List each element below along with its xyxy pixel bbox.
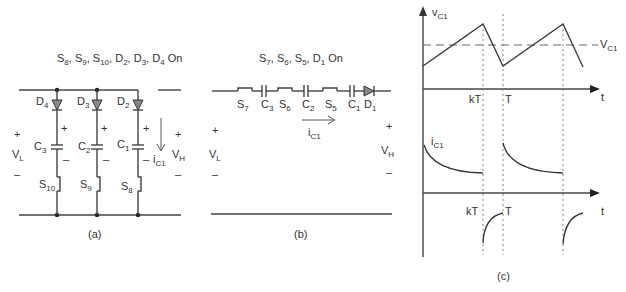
svg-text:S6: S6 bbox=[279, 98, 291, 113]
panel-b: S7, S6, S5, D1 On S7 C3 S6 C2 bbox=[209, 52, 394, 240]
switch-s9-icon bbox=[97, 177, 100, 191]
svg-text:C3: C3 bbox=[261, 98, 274, 113]
switch-s6-icon bbox=[278, 88, 292, 91]
svg-text:S8: S8 bbox=[121, 180, 133, 195]
x-axis-top-arrow-icon bbox=[590, 85, 600, 93]
svg-text:VH: VH bbox=[172, 148, 185, 163]
svg-text:iC1: iC1 bbox=[308, 126, 321, 141]
panel-c: vC1 VC1 kT T t iC1 kT T t (c) bbox=[419, 6, 618, 282]
svg-text:–: – bbox=[63, 153, 70, 165]
switch-s5-icon bbox=[323, 88, 337, 91]
ic1-negative-1 bbox=[483, 213, 503, 243]
svg-text:D2: D2 bbox=[117, 95, 130, 110]
svg-text:+: + bbox=[61, 122, 67, 134]
svg-text:+: + bbox=[386, 120, 392, 132]
branch-1: D4 C3 + – S10 bbox=[34, 90, 70, 215]
ic1-negative-2 bbox=[563, 213, 583, 244]
panel-a-caption: (a) bbox=[88, 228, 101, 240]
svg-text:–: – bbox=[212, 168, 219, 180]
diode-d2-icon bbox=[133, 100, 143, 110]
svg-text:S5: S5 bbox=[325, 98, 337, 113]
branch-2: D3 C2 + – S9 bbox=[77, 90, 110, 215]
svg-text:+: + bbox=[143, 122, 149, 134]
switch-s8-icon bbox=[138, 177, 141, 191]
ic1-positive-2 bbox=[503, 143, 563, 173]
svg-text:kT: kT bbox=[466, 205, 479, 217]
svg-text:t: t bbox=[601, 205, 604, 217]
svg-text:C1: C1 bbox=[117, 138, 130, 153]
panel-b-title: S7, S6, S5, D1 On bbox=[259, 52, 343, 67]
svg-text:iC1: iC1 bbox=[153, 153, 166, 168]
svg-text:VC1: VC1 bbox=[600, 38, 618, 53]
series-chain bbox=[212, 85, 391, 97]
x-axis-bottom-arrow-icon bbox=[590, 189, 600, 197]
svg-text:T: T bbox=[505, 205, 512, 217]
svg-text:iC1: iC1 bbox=[431, 135, 444, 150]
svg-text:–: – bbox=[175, 168, 182, 180]
switch-s7-icon bbox=[238, 88, 252, 91]
panel-c-caption: (c) bbox=[497, 270, 510, 282]
svg-text:S7: S7 bbox=[237, 98, 249, 113]
svg-text:+: + bbox=[175, 128, 181, 140]
svg-text:–: – bbox=[386, 166, 393, 178]
svg-text:VH: VH bbox=[381, 144, 394, 159]
svg-text:D1: D1 bbox=[364, 98, 377, 113]
svg-text:+: + bbox=[101, 122, 107, 134]
diode-d1-icon bbox=[364, 86, 374, 96]
switch-s10-icon bbox=[57, 177, 60, 191]
svg-text:D3: D3 bbox=[77, 95, 90, 110]
svg-text:VL: VL bbox=[209, 148, 221, 163]
svg-text:T: T bbox=[505, 93, 512, 105]
panel-b-caption: (b) bbox=[294, 228, 307, 240]
svg-text:+: + bbox=[14, 128, 20, 140]
svg-text:–: – bbox=[143, 153, 150, 165]
converter-diagram: S8, S9, S10, D2, D3, D4 On D4 C3 + – bbox=[0, 0, 626, 292]
panel-a: S8, S9, S10, D2, D3, D4 On D4 C3 + – bbox=[12, 52, 185, 240]
svg-text:S9: S9 bbox=[80, 178, 92, 193]
svg-text:–: – bbox=[14, 168, 21, 180]
svg-text:C1: C1 bbox=[348, 98, 361, 113]
svg-text:kT: kT bbox=[469, 93, 482, 105]
svg-text:–: – bbox=[103, 153, 110, 165]
svg-text:C3: C3 bbox=[34, 140, 47, 155]
svg-text:S10: S10 bbox=[39, 178, 56, 193]
panel-a-title: S8, S9, S10, D2, D3, D4 On bbox=[57, 52, 182, 67]
diode-d3-icon bbox=[92, 100, 102, 110]
svg-text:VL: VL bbox=[12, 148, 24, 163]
svg-text:C2: C2 bbox=[302, 98, 315, 113]
svg-text:C2: C2 bbox=[78, 140, 91, 155]
svg-text:vC1: vC1 bbox=[432, 6, 448, 21]
diode-d4-icon bbox=[52, 100, 62, 110]
svg-text:+: + bbox=[212, 124, 218, 136]
y-axis-arrow-icon bbox=[419, 6, 427, 16]
branch-3: D2 C1 + – S8 bbox=[117, 95, 150, 215]
svg-text:t: t bbox=[601, 91, 604, 103]
svg-text:D4: D4 bbox=[36, 95, 49, 110]
